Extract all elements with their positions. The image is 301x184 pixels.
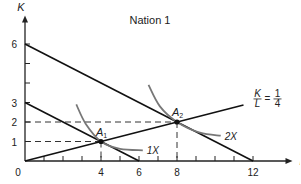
y-axis-arrow [22,16,28,23]
y-tick-label: 6 [11,39,17,50]
x-tick-label: 8 [174,167,180,178]
x-tick-label: 4 [98,167,104,178]
chart-title: Nation 1 [130,14,171,26]
ray-line [25,105,244,161]
x-tick-label: 6 [136,167,142,178]
point-label: A2 [171,106,183,119]
ray-label-val-den: 4 [275,98,281,109]
x-tick-label: 0 [15,167,21,178]
axes [22,16,293,165]
ray-label-den: L [255,98,261,109]
isoquant-2X [149,85,221,136]
y-tick-label: 2 [11,117,17,128]
isocost-2-line [25,44,253,161]
y-tick-label: 3 [11,98,17,109]
isoquant-label: 1X [147,145,160,156]
point-label-subscript: 1 [103,132,107,139]
ray-label-eq: = [265,93,271,104]
chart: Nation 1 LK0468121236KL=141X2XA1A2 [0,0,300,184]
isoquant-label: 2X [224,131,238,142]
lines [25,44,253,161]
labels: LK0468121236KL=141X2XA1A2 [11,1,300,179]
x-axis-label: L [300,155,301,167]
isocost-1-line [25,103,139,162]
point-label-subscript: 2 [179,112,183,119]
point-A1 [98,139,103,144]
point-label: A1 [95,126,107,139]
point-A2 [174,119,179,124]
x-axis-arrow [286,158,293,164]
isoquant-1X [76,104,143,150]
y-tick-label: 1 [11,137,17,148]
y-axis-label: K [17,1,25,13]
x-tick-label: 12 [247,167,259,178]
